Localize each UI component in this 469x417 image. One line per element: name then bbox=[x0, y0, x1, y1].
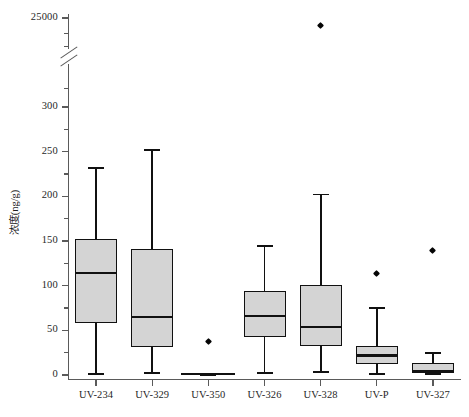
y-tick-label: 100 bbox=[14, 280, 58, 290]
whisker-upper bbox=[95, 167, 97, 239]
x-tick-UV-327 bbox=[432, 380, 433, 386]
whisker-cap-lower bbox=[369, 373, 385, 375]
whisker-cap-upper bbox=[425, 352, 441, 354]
x-tick-UV-329 bbox=[152, 380, 153, 386]
outlier-point bbox=[373, 270, 380, 277]
whisker-cap-upper bbox=[88, 167, 104, 169]
y-tick-label: 200 bbox=[14, 190, 58, 200]
y-minor-tick bbox=[64, 46, 69, 47]
whisker-cap-lower bbox=[257, 372, 273, 374]
whisker-cap-upper bbox=[369, 307, 385, 309]
y-tick-label: 300 bbox=[14, 101, 58, 111]
whisker-upper bbox=[264, 245, 266, 291]
whisker-lower bbox=[95, 323, 97, 373]
whisker-cap-lower bbox=[425, 373, 441, 375]
y-tick-label: 0 bbox=[14, 369, 58, 379]
y-tick-50 bbox=[62, 330, 69, 331]
boxplot-chart: 浓度(ng/g) 05010015020025030025000 UV-234U… bbox=[0, 0, 469, 417]
whisker-cap-upper bbox=[313, 194, 329, 196]
y-minor-tick bbox=[64, 307, 69, 308]
y-minor-tick bbox=[64, 88, 69, 89]
y-minor-tick bbox=[64, 352, 69, 353]
x-tick-UV-P bbox=[376, 380, 377, 386]
y-tick-25000 bbox=[62, 17, 69, 18]
whisker-cap-lower bbox=[144, 372, 160, 374]
box-UV-329 bbox=[131, 249, 173, 347]
box-UV-234 bbox=[75, 239, 117, 323]
y-minor-tick bbox=[64, 218, 69, 219]
whisker-cap-upper bbox=[257, 245, 273, 247]
box-collapsed bbox=[181, 373, 235, 375]
y-tick-200 bbox=[62, 196, 69, 197]
y-tick-label: 250 bbox=[14, 146, 58, 156]
median-line bbox=[75, 272, 117, 274]
median-line bbox=[131, 316, 173, 318]
y-tick-150 bbox=[62, 240, 69, 241]
median-line bbox=[244, 315, 286, 317]
y-tick-label: 150 bbox=[14, 235, 58, 245]
median-line bbox=[300, 326, 342, 328]
y-tick-300 bbox=[62, 106, 69, 107]
whisker-upper bbox=[151, 149, 153, 249]
y-tick-label: 25000 bbox=[14, 12, 58, 22]
outlier-point bbox=[205, 338, 212, 345]
whisker-lower bbox=[264, 337, 266, 372]
y-minor-tick bbox=[64, 129, 69, 130]
x-tick-label-UV-327: UV-327 bbox=[397, 389, 469, 401]
y-minor-tick bbox=[64, 33, 69, 34]
whisker-cap-lower bbox=[313, 371, 329, 373]
y-tick-100 bbox=[62, 285, 69, 286]
y-minor-tick bbox=[64, 173, 69, 174]
outlier-point bbox=[429, 247, 436, 254]
whisker-lower bbox=[151, 347, 153, 372]
whisker-upper bbox=[376, 307, 378, 345]
x-tick-UV-326 bbox=[264, 380, 265, 386]
y-minor-tick bbox=[64, 263, 69, 264]
median-line bbox=[412, 370, 454, 372]
whisker-cap-upper bbox=[144, 149, 160, 151]
whisker-lower bbox=[376, 364, 378, 373]
outlier-point bbox=[317, 21, 324, 28]
y-tick-250 bbox=[62, 151, 69, 152]
x-tick-UV-328 bbox=[320, 380, 321, 386]
x-tick-UV-234 bbox=[95, 380, 96, 386]
box-UV-328 bbox=[300, 285, 342, 347]
whisker-upper bbox=[320, 194, 322, 285]
y-tick-0 bbox=[62, 374, 69, 375]
median-line bbox=[356, 354, 398, 356]
x-tick-UV-350 bbox=[208, 380, 209, 386]
whisker-cap-lower bbox=[88, 373, 104, 375]
y-tick-label: 50 bbox=[14, 324, 58, 334]
whisker-lower bbox=[320, 346, 322, 371]
